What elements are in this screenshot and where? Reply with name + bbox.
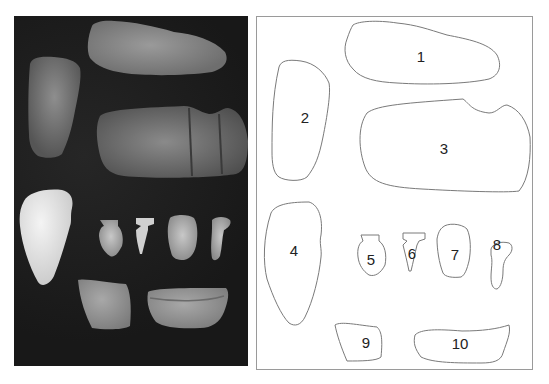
stone-7 [168,215,198,260]
label-4: 4 [290,242,298,259]
label-9: 9 [362,334,370,351]
label-6: 6 [408,245,416,262]
label-2: 2 [301,109,309,126]
artifact-photo [14,16,248,366]
label-3: 3 [440,140,448,157]
artifact-outline-drawing: 1 2 3 4 5 6 7 8 9 10 [256,16,533,370]
stone-3 [97,106,248,178]
label-7: 7 [451,246,459,263]
stone-2 [28,57,80,158]
stone-4 [20,190,73,285]
label-10: 10 [452,335,469,352]
label-5: 5 [367,251,375,268]
stone-1 [88,21,227,75]
outline-9 [335,323,382,361]
outlines [257,17,534,371]
photo-stones [14,16,248,366]
label-1: 1 [417,48,425,65]
outline-4 [264,202,321,325]
stone-5 [99,220,123,257]
stone-8 [211,217,230,260]
label-8: 8 [493,236,501,253]
stone-9 [78,279,131,329]
stone-6 [136,218,154,254]
stone-10 [147,288,228,328]
